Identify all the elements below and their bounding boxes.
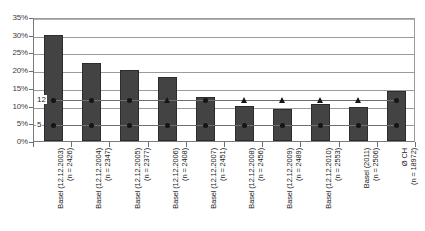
plot-area: 125 xyxy=(33,18,415,142)
x-axis-labels: Basel (12.12.2003)(n = 2426)Basel (12.12… xyxy=(33,148,415,230)
x-axis-tick-mark xyxy=(262,142,263,147)
category-label-line2: (n = 18972) xyxy=(409,148,418,228)
y-axis-tick-label: 15% xyxy=(0,84,28,93)
category-label-line1: Basel (12.12.2004) xyxy=(94,148,103,209)
category-label-line1: Basel (12.12.2009) xyxy=(285,148,294,209)
x-axis-tick-mark xyxy=(148,142,149,147)
category-label-line2: (n = 2377) xyxy=(142,148,151,228)
dot-marker-icon xyxy=(356,123,361,128)
category-label-line1: Basel (12.12.2003) xyxy=(56,148,65,209)
x-axis-category-label: Basel (12.12.2007)(n = 2451) xyxy=(209,148,227,228)
category-label-line2: (n = 2553) xyxy=(333,148,342,228)
category-label-line2: (n = 2506) xyxy=(371,148,380,228)
category-label-line1: Basel (12.12.2005) xyxy=(133,148,142,209)
dot-marker-icon xyxy=(280,123,285,128)
dot-marker-icon xyxy=(127,98,132,103)
y-axis-tick-label: 30% xyxy=(0,31,28,40)
x-axis-category-label: Basel (12.12.2006)(n = 2408) xyxy=(171,148,189,228)
triangle-marker-icon xyxy=(317,97,323,103)
category-label-line1: Basel (12.12.2010) xyxy=(324,148,333,209)
x-axis-tick-mark xyxy=(224,142,225,147)
x-axis-category-label: Basel (12.12.2008)(n = 2456) xyxy=(247,148,265,228)
dot-marker-icon xyxy=(51,98,56,103)
category-label-line2: (n = 2408) xyxy=(180,148,189,228)
dot-marker-icon xyxy=(51,123,56,128)
x-axis-category-label: Basel (12.12.2005)(n = 2377) xyxy=(133,148,151,228)
x-axis-tick-mark xyxy=(377,142,378,147)
triangle-marker-icon xyxy=(355,97,361,103)
category-label-line2: (n = 2489) xyxy=(294,148,303,228)
x-axis-category-label: Ø CH(n = 18972) xyxy=(400,148,418,228)
y-axis-tick-label: 0% xyxy=(0,137,28,146)
dot-marker-icon xyxy=(318,123,323,128)
category-label-line1: Basel (12.12.2008) xyxy=(247,148,256,209)
dot-marker-icon xyxy=(242,123,247,128)
category-label-line2: (n = 2347) xyxy=(103,148,112,228)
y-axis-tick-label: 20% xyxy=(0,66,28,75)
x-axis-tick-mark xyxy=(339,142,340,147)
bar xyxy=(158,77,177,141)
chart-container: 0%5%10%15%20%25%30%35% 125 Basel (12.12.… xyxy=(0,0,425,231)
x-axis-category-label: Basel (12.12.2004)(n = 2347) xyxy=(94,148,112,228)
y-axis-tick-label: 5% xyxy=(0,119,28,128)
category-label-line1: Basel (2011) xyxy=(362,148,371,188)
x-axis-tick-mark xyxy=(415,142,416,147)
x-axis-tick-mark xyxy=(186,142,187,147)
dot-marker-icon xyxy=(89,123,94,128)
y-axis-tick-label: 10% xyxy=(0,102,28,111)
category-label-line1: Basel (12.12.2006) xyxy=(171,148,180,209)
y-axis-tick-label: 35% xyxy=(0,13,28,22)
triangle-marker-icon xyxy=(164,97,170,103)
bar xyxy=(120,70,139,141)
x-axis-category-label: Basel (12.12.2009)(n = 2489) xyxy=(285,148,303,228)
series-line xyxy=(53,100,397,101)
category-label-line2: (n = 2451) xyxy=(218,148,227,228)
category-label-line2: (n = 2456) xyxy=(256,148,265,228)
triangle-marker-icon xyxy=(279,97,285,103)
dot-marker-icon xyxy=(89,98,94,103)
x-axis-category-label: Basel (12.12.2003)(n = 2426) xyxy=(56,148,74,228)
bar xyxy=(196,97,215,141)
category-label-line1: Basel (12.12.2007) xyxy=(209,148,218,209)
series-line xyxy=(53,125,397,126)
x-axis-tick-mark xyxy=(300,142,301,147)
x-axis-category-label: Basel (2011)(n = 2506) xyxy=(362,148,380,228)
triangle-marker-icon xyxy=(241,97,247,103)
category-label-line1: Ø CH xyxy=(400,148,409,166)
x-axis-tick-mark xyxy=(33,142,34,147)
x-axis-tick-mark xyxy=(109,142,110,147)
x-axis-tick-mark xyxy=(71,142,72,147)
x-axis-ticks xyxy=(33,142,415,147)
dot-marker-icon xyxy=(165,123,170,128)
x-axis-category-label: Basel (12.12.2010)(n = 2553) xyxy=(324,148,342,228)
y-axis-tick-label: 25% xyxy=(0,48,28,57)
inline-value-label: 5 xyxy=(36,120,42,129)
category-label-line2: (n = 2426) xyxy=(65,148,74,228)
dot-marker-icon xyxy=(127,123,132,128)
inline-value-label: 12 xyxy=(36,95,47,104)
